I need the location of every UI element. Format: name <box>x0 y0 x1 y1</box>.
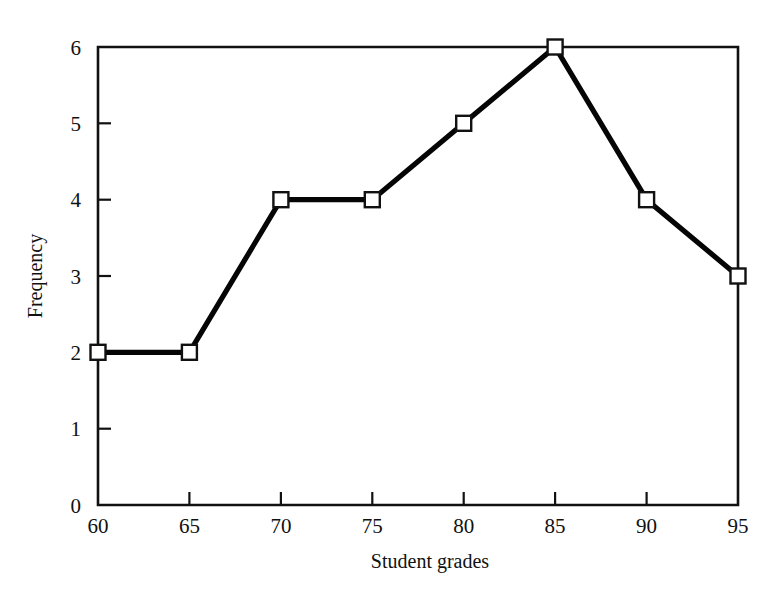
data-point-70 <box>273 192 288 207</box>
series-markers <box>91 40 746 360</box>
chart-canvas: 0 1 2 3 4 5 6 60 65 70 75 80 85 90 95 St… <box>0 0 784 594</box>
y-axis-title: Frequency <box>24 234 47 318</box>
data-point-90 <box>639 192 654 207</box>
x-tick-label-75: 75 <box>362 514 383 538</box>
data-point-60 <box>91 345 106 360</box>
x-tick-label-85: 85 <box>545 514 566 538</box>
x-tick-label-60: 60 <box>88 514 109 538</box>
y-tick-label-5: 5 <box>71 112 82 136</box>
y-tick-label-6: 6 <box>71 36 82 60</box>
plot-frame <box>98 47 738 505</box>
y-tick-label-4: 4 <box>71 188 82 212</box>
x-axis-ticks <box>189 492 646 505</box>
x-tick-label-65: 65 <box>179 514 200 538</box>
y-tick-label-1: 1 <box>71 417 82 441</box>
y-tick-label-3: 3 <box>71 265 82 289</box>
y-tick-label-2: 2 <box>71 341 82 365</box>
y-axis-ticks <box>98 123 111 428</box>
y-tick-labels: 0 1 2 3 4 5 6 <box>71 36 82 518</box>
data-point-75 <box>365 192 380 207</box>
x-axis-title: Student grades <box>371 550 490 573</box>
x-tick-label-95: 95 <box>728 514 749 538</box>
x-tick-labels: 60 65 70 75 80 85 90 95 <box>88 514 749 538</box>
data-point-65 <box>182 345 197 360</box>
frequency-polygon-chart: 0 1 2 3 4 5 6 60 65 70 75 80 85 90 95 St… <box>0 0 784 594</box>
x-tick-label-80: 80 <box>453 514 474 538</box>
data-point-95 <box>731 269 746 284</box>
y-tick-label-0: 0 <box>71 494 82 518</box>
data-point-80 <box>456 116 471 131</box>
x-tick-label-70: 70 <box>270 514 291 538</box>
x-tick-label-90: 90 <box>636 514 657 538</box>
data-point-85 <box>548 40 563 55</box>
